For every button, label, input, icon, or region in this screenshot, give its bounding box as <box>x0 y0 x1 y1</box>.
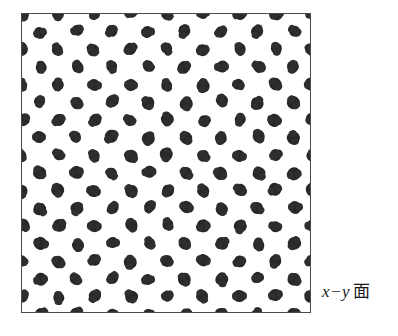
lattice-dot <box>176 23 192 39</box>
plane-label-axis-expression: x−y <box>322 282 350 301</box>
lattice-dot <box>140 130 156 147</box>
lattice-dot <box>231 181 248 198</box>
lattice-dot <box>232 78 246 92</box>
lattice-dot <box>33 25 47 40</box>
lattice-dot <box>160 288 174 303</box>
lattice-dot <box>71 238 85 252</box>
lattice-dot <box>123 14 138 20</box>
lattice-dot <box>22 78 28 91</box>
lattice-dot <box>288 201 300 214</box>
lattice-dot <box>179 97 192 110</box>
lattice-dot <box>142 236 157 251</box>
plane-label: x−y面 <box>322 283 370 300</box>
lattice-dot <box>304 111 310 127</box>
lattice-dot <box>303 42 310 58</box>
lattice-dot <box>22 148 29 163</box>
lattice-dot <box>270 42 283 55</box>
lattice-dot <box>142 307 156 312</box>
lattice-dot <box>104 307 119 312</box>
lattice-dot <box>36 62 47 73</box>
lattice-dot <box>140 95 157 112</box>
lattice-dot <box>195 43 210 58</box>
lattice-dot <box>122 147 140 165</box>
lattice-dot <box>121 40 138 56</box>
lattice-dot <box>306 14 310 21</box>
lattice-dot <box>49 182 65 198</box>
lattice-dot <box>234 113 246 126</box>
lattice-dot <box>142 273 155 286</box>
lattice-dot <box>211 164 229 182</box>
lattice-dot <box>250 307 264 312</box>
lattice-dot <box>160 183 177 200</box>
lattice-dot <box>141 59 156 74</box>
lattice-dot <box>87 219 101 232</box>
lattice-dot <box>22 253 29 269</box>
lattice-dot <box>214 201 229 216</box>
lattice-dot <box>195 252 210 267</box>
lattice-dot <box>69 305 85 312</box>
lattice-dot <box>32 200 50 217</box>
lattice-dot <box>268 14 285 22</box>
lattice-dot <box>285 129 301 144</box>
lattice-dot <box>177 164 194 181</box>
lattice-dot <box>122 112 137 127</box>
lattice-dot <box>123 287 141 305</box>
lattice-dot <box>105 270 121 286</box>
lattice-dot <box>31 163 49 181</box>
lattice-dot <box>287 166 302 181</box>
lattice-dot <box>175 58 192 75</box>
lattice-dot <box>69 95 85 112</box>
lattice-dot <box>22 111 32 129</box>
lattice-dot <box>124 255 138 269</box>
lattice-dot <box>86 147 102 163</box>
lattice-dot <box>213 24 229 40</box>
lattice-dot <box>104 166 120 182</box>
lattice-dot <box>269 220 282 233</box>
figure-root: x−y面 <box>0 0 398 336</box>
lattice-dot <box>160 113 174 127</box>
lattice-dot <box>107 236 119 248</box>
lattice-dot <box>22 288 31 305</box>
lattice-dot <box>194 288 210 304</box>
lattice-dot <box>34 272 49 287</box>
lattice-dot <box>249 200 265 216</box>
lattice-dot <box>51 147 67 163</box>
lattice-dot <box>268 147 283 162</box>
lattice-dot <box>251 271 265 285</box>
lattice-dot <box>250 128 267 145</box>
lattice-dot <box>213 235 230 252</box>
lattice-dot <box>285 270 303 288</box>
lattice-dot <box>142 199 158 215</box>
lattice-dot <box>285 235 303 253</box>
lattice-dot <box>303 288 310 305</box>
lattice-dot <box>196 148 212 164</box>
lattice-dot <box>33 95 47 109</box>
lattice-dot <box>87 14 101 20</box>
lattice-dot <box>68 271 84 287</box>
lattice-dot <box>195 218 211 234</box>
lattice-dot <box>50 42 65 57</box>
lattice-dot <box>232 254 247 269</box>
lattice-dot <box>143 165 156 178</box>
lattice-dot <box>70 23 85 37</box>
lattice-dot <box>86 184 101 199</box>
lattice-dot <box>160 217 175 232</box>
lattice-dot <box>305 148 310 164</box>
lattice-dot <box>50 216 68 234</box>
lattice-dot <box>104 92 122 110</box>
lattice-dot <box>159 41 175 57</box>
plane-label-kanji: 面 <box>353 281 370 301</box>
lattice-dot <box>215 61 228 73</box>
lattice-dot <box>214 94 229 109</box>
lattice-dot <box>22 183 30 200</box>
lattice-dot <box>122 183 139 200</box>
lattice-dot <box>284 305 302 312</box>
lattice-dot <box>159 253 175 269</box>
lattice-dot <box>104 23 120 39</box>
lattice-dot <box>51 79 64 91</box>
dot-lattice-surface <box>22 14 310 312</box>
lattice-dot <box>197 113 212 128</box>
lattice-dot <box>22 14 31 23</box>
lattice-dot <box>51 111 67 127</box>
lattice-dot <box>87 288 104 305</box>
